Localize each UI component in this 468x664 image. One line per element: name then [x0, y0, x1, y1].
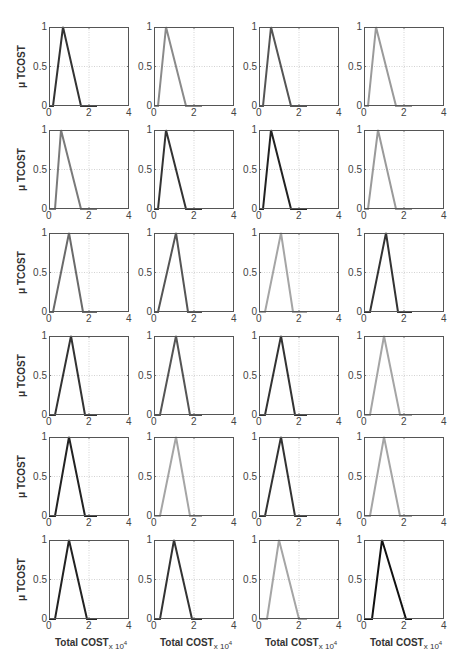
y-tick-label: 1 [146, 331, 152, 341]
x-tick-label: 2 [296, 621, 302, 631]
y-tick-label: 1 [356, 22, 362, 32]
x-tick-label: 0 [151, 417, 157, 427]
subplot-r1c3 [259, 27, 339, 106]
subplot-r2c4 [364, 130, 444, 209]
y-tick-label: 0.5 [33, 62, 47, 72]
y-tick-label: 1 [251, 432, 257, 442]
x-axis-exponent: 4 [439, 640, 442, 646]
x-axis-label: Total COSTx 104 [160, 637, 232, 648]
x-tick-label: 0 [256, 211, 262, 221]
subplot-r4c3 [259, 336, 339, 415]
subplot-r1c2 [154, 27, 234, 106]
x-tick-label: 4 [231, 211, 237, 221]
x-axis-exponent: 4 [229, 640, 232, 646]
x-tick-label: 2 [401, 108, 407, 118]
y-tick-label: 1 [146, 125, 152, 135]
y-tick-label: 1 [356, 432, 362, 442]
x-tick-label: 2 [86, 417, 92, 427]
x-tick-label: 0 [361, 621, 367, 631]
y-axis-label: μ TCOST [16, 36, 27, 96]
y-tick-label: 0.5 [243, 472, 257, 482]
y-tick-label: 0.5 [33, 268, 47, 278]
x-tick-label: 0 [151, 314, 157, 324]
x-tick-label: 2 [296, 211, 302, 221]
y-tick-label: 1 [251, 535, 257, 545]
y-tick-label: 1 [41, 22, 47, 32]
y-axis-label: μ TCOST [16, 446, 27, 506]
plot-area [259, 233, 339, 312]
x-tick-label: 0 [151, 518, 157, 528]
x-tick-label: 0 [151, 621, 157, 631]
x-tick-label: 2 [191, 518, 197, 528]
plot-area [49, 336, 129, 415]
x-tick-label: 4 [231, 621, 237, 631]
x-tick-label: 2 [191, 314, 197, 324]
x-tick-label: 4 [231, 417, 237, 427]
gridlines [364, 233, 444, 312]
x-tick-label: 2 [401, 211, 407, 221]
y-tick-label: 1 [41, 535, 47, 545]
x-tick-label: 4 [231, 518, 237, 528]
x-tick-label: 0 [46, 417, 52, 427]
plot-area [364, 130, 444, 209]
plot-area [154, 336, 234, 415]
x-tick-label: 0 [256, 108, 262, 118]
subplot-r6c4 [364, 540, 444, 619]
plot-area [364, 437, 444, 516]
x-tick-label: 4 [126, 417, 132, 427]
x-tick-label: 2 [86, 621, 92, 631]
x-tick-label: 0 [256, 314, 262, 324]
subplot-r5c1 [49, 437, 129, 516]
y-tick-label: 1 [251, 228, 257, 238]
x-axis-multiplier: x 104 [109, 642, 127, 651]
y-tick-label: 1 [356, 331, 362, 341]
x-tick-label: 0 [46, 314, 52, 324]
subplot-r5c2 [154, 437, 234, 516]
x-tick-label: 4 [231, 314, 237, 324]
y-tick-label: 0.5 [348, 472, 362, 482]
x-tick-label: 4 [126, 518, 132, 528]
y-tick-label: 0.5 [138, 472, 152, 482]
x-tick-label: 0 [361, 108, 367, 118]
x-axis-multiplier: x 104 [424, 642, 442, 651]
y-tick-label: 0.5 [243, 371, 257, 381]
y-tick-label: 0.5 [138, 268, 152, 278]
y-axis-label: μ TCOST [16, 139, 27, 199]
subplot-r2c3 [259, 130, 339, 209]
x-tick-label: 0 [256, 621, 262, 631]
plot-area [49, 540, 129, 619]
y-tick-label: 1 [146, 228, 152, 238]
gridlines [259, 437, 339, 516]
subplot-r2c1 [49, 130, 129, 209]
x-tick-label: 4 [336, 621, 342, 631]
x-tick-label: 2 [401, 621, 407, 631]
x-axis-label: Total COSTx 104 [55, 637, 127, 648]
x-tick-label: 2 [296, 314, 302, 324]
x-tick-label: 2 [86, 314, 92, 324]
x-tick-label: 0 [46, 211, 52, 221]
y-axis-label: μ TCOST [16, 345, 27, 405]
x-tick-label: 0 [256, 417, 262, 427]
subplot-r5c3 [259, 437, 339, 516]
x-axis-exponent: 4 [124, 640, 127, 646]
x-axis-multiplier: x 104 [319, 642, 337, 651]
x-tick-label: 2 [86, 108, 92, 118]
x-tick-label: 0 [361, 314, 367, 324]
gridlines [259, 233, 339, 312]
x-tick-label: 0 [151, 211, 157, 221]
plot-area [49, 27, 129, 106]
y-tick-label: 0.5 [243, 62, 257, 72]
y-axis-label: μ TCOST [16, 242, 27, 302]
y-tick-label: 0.5 [33, 371, 47, 381]
y-tick-label: 0.5 [348, 575, 362, 585]
y-tick-label: 1 [146, 22, 152, 32]
x-tick-label: 0 [151, 108, 157, 118]
gridlines [154, 336, 234, 415]
y-tick-label: 0.5 [138, 165, 152, 175]
x-tick-label: 2 [191, 417, 197, 427]
subplot-r4c2 [154, 336, 234, 415]
subplot-r3c2 [154, 233, 234, 312]
plot-area [154, 233, 234, 312]
subplot-r2c2 [154, 130, 234, 209]
x-tick-label: 4 [126, 211, 132, 221]
